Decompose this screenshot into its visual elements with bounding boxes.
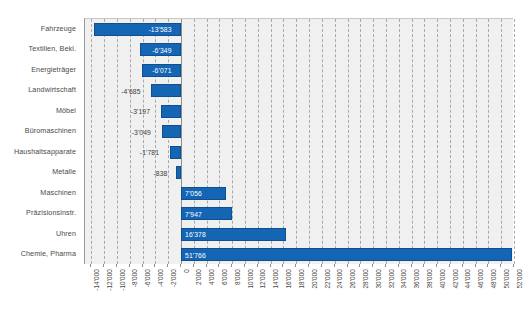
x-tick-label: 44'000 [464,269,471,289]
category-label: Möbel [0,100,82,121]
x-tick-mark [411,264,412,267]
x-tick-mark [206,264,207,267]
x-tick-mark [116,264,117,267]
x-tick-mark [295,264,296,267]
category-axis: FahrzeugeTextilien, Bekl.EnergieträgerLa… [0,18,82,264]
bar [161,105,181,118]
bar-series: -13'583-6'349-6'071-4'685-3'197-3'049-1'… [85,19,513,264]
x-tick-mark [282,264,283,267]
x-tick-label: 20'000 [311,269,318,289]
category-label: Haushaltsapparate [0,141,82,162]
x-tick-label: 46'000 [477,269,484,289]
x-tick-label: 0 [183,269,190,273]
category-label: Landwirtschaft [0,80,82,101]
x-tick-label: 50'000 [503,269,510,289]
x-tick-mark [193,264,194,267]
category-label: Textilien, Bekl. [0,39,82,60]
x-tick-mark [359,264,360,267]
bar-row: -6'349 [85,43,513,56]
x-tick-mark [167,264,168,267]
x-tick-mark [347,264,348,267]
x-tick-label: 26'000 [349,269,356,289]
bar-value-label: -1'781 [140,149,159,156]
x-tick-mark [321,264,322,267]
x-tick-mark [398,264,399,267]
bar-row: 51'766 [85,248,513,261]
x-tick-mark [129,264,130,267]
x-tick-label: 38'000 [426,269,433,289]
x-tick-label: 4'000 [208,269,215,285]
bar [170,146,181,159]
category-label: Metalle [0,162,82,183]
bar [151,84,181,97]
x-tick-label: 6'000 [221,269,228,285]
x-tick-mark [231,264,232,267]
x-tick-label: -8'000 [131,269,138,287]
x-tick-mark [334,264,335,267]
x-tick-label: 42'000 [452,269,459,289]
bar-value-label: -838 [153,169,167,176]
x-tick-label: 22'000 [324,269,331,289]
bar-row: -3'197 [85,105,513,118]
x-tick-label: 40'000 [439,269,446,289]
x-tick-label: 16'000 [285,269,292,289]
x-tick-label: 10'000 [247,269,254,289]
category-label: Büromaschinen [0,121,82,142]
bar-row: -4'685 [85,84,513,97]
bar-value-label: -6'349 [152,46,171,53]
x-tick-mark [487,264,488,267]
gridline [514,19,515,264]
x-tick-mark [257,264,258,267]
x-tick-label: 18'000 [298,269,305,289]
bar-row: 16'378 [85,228,513,241]
bar [176,166,181,179]
bar-row: -13'583 [85,23,513,36]
bar-value-label: -6'071 [152,67,171,74]
bar-value-label: 51'766 [185,251,206,258]
x-tick-label: 2'000 [195,269,202,285]
x-tick-mark [513,264,514,267]
category-label: Präzisionsinstr. [0,203,82,224]
category-label: Uhren [0,223,82,244]
x-tick-mark [244,264,245,267]
x-tick-label: 48'000 [490,269,497,289]
bar-row: -3'049 [85,125,513,138]
x-tick-label: -14'000 [93,269,100,291]
category-label: Chemie, Pharma [0,244,82,265]
x-tick-label: 32'000 [388,269,395,289]
x-tick-mark [385,264,386,267]
bar-row: -6'071 [85,64,513,77]
bar-value-label: 7'056 [185,190,202,197]
x-tick-mark [103,264,104,267]
bar-row: 7'056 [85,187,513,200]
x-tick-label: -2'000 [170,269,177,287]
x-tick-label: 24'000 [336,269,343,289]
x-tick-label: 28'000 [362,269,369,289]
bar-value-label: -3'049 [132,128,151,135]
x-tick-mark [142,264,143,267]
value-axis: -14'000-12'000-10'000-8'000-6'000-4'000-… [84,264,513,312]
x-tick-label: 34'000 [400,269,407,289]
bar-value-label: -13'583 [148,26,171,33]
x-tick-mark [462,264,463,267]
x-tick-mark [270,264,271,267]
category-label: Energieträger [0,59,82,80]
x-tick-mark [475,264,476,267]
bar-value-label: -3'197 [131,108,150,115]
x-tick-mark [180,264,181,267]
category-label: Maschinen [0,182,82,203]
x-tick-mark [449,264,450,267]
x-tick-mark [308,264,309,267]
x-tick-mark [372,264,373,267]
bar-row: -838 [85,166,513,179]
x-tick-mark [436,264,437,267]
bar-row: 7'947 [85,207,513,220]
x-tick-label: 52'000 [516,269,523,289]
bar-value-label: 7'947 [185,210,202,217]
x-tick-mark [218,264,219,267]
bar [181,248,512,261]
x-tick-label: -10'000 [119,269,126,291]
x-tick-mark [90,264,91,267]
bar-row: -1'781 [85,146,513,159]
